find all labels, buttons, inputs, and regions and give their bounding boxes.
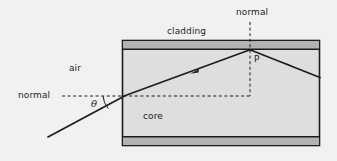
point-p-label: P <box>254 55 260 64</box>
fibre-outer-boundary <box>123 41 320 146</box>
cladding-bottom-band <box>123 137 319 145</box>
normal-left-label: normal <box>18 91 50 100</box>
air-label: air <box>69 64 81 73</box>
core-label: core <box>143 112 163 121</box>
cladding-top-band <box>123 41 319 49</box>
theta-label: θ <box>91 99 97 109</box>
diagram-canvas <box>0 0 337 161</box>
normal-top-label: normal <box>236 8 268 17</box>
cladding-label: cladding <box>167 27 206 36</box>
fibre-optics-diagram: cladding core air normal normal P θ <box>0 0 337 161</box>
incident-ray <box>48 96 125 137</box>
